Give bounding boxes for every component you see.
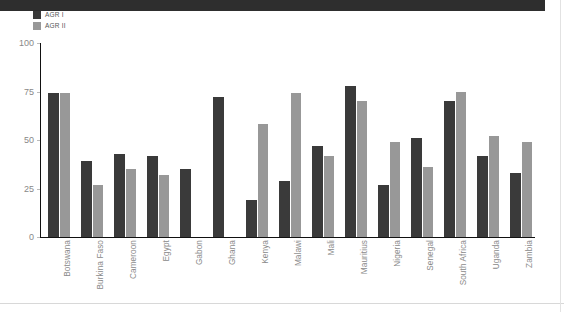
x-axis-label: South Africa (459, 240, 468, 285)
bar-group (378, 43, 400, 237)
bar (126, 169, 137, 237)
x-axis-label: Senegal (426, 240, 435, 271)
x-axis-label: Gabon (195, 240, 204, 265)
bar (180, 169, 191, 237)
bar (357, 101, 368, 237)
bar-group (147, 43, 169, 237)
y-axis-tick-label: 0 (29, 232, 34, 242)
x-axis-label: Uganda (492, 240, 501, 269)
x-axis-label: Nigeria (393, 240, 402, 267)
bar-group (114, 43, 136, 237)
x-axis-label: Egypt (162, 240, 171, 261)
x-axis-labels: BotswanaBurkina FasoCameroonEgyptGabonGh… (40, 240, 535, 310)
chart-figure: AGR IAGR II 0255075100 BotswanaBurkina F… (0, 0, 564, 312)
x-axis-line (40, 237, 535, 238)
bar-group (180, 43, 202, 237)
x-axis-label: Mauritius (360, 240, 369, 274)
x-axis-label: Botswana (63, 240, 72, 277)
bar (93, 185, 104, 237)
legend-swatch-icon (33, 22, 41, 30)
bar (423, 167, 434, 237)
bar-group (279, 43, 301, 237)
bar (48, 93, 59, 237)
bar (477, 156, 488, 237)
bar (378, 185, 389, 237)
legend-item-label: AGR II (45, 22, 66, 30)
bar (291, 93, 302, 237)
bar (522, 142, 533, 237)
bar (114, 154, 125, 237)
x-axis-label: Malawi (294, 240, 303, 266)
bar-group (213, 43, 235, 237)
bar (324, 156, 335, 237)
right-rule (560, 0, 561, 312)
bar-group (48, 43, 70, 237)
legend-item-label: AGR I (45, 11, 64, 19)
bar (312, 146, 323, 237)
chart-legend: AGR IAGR II (33, 10, 66, 32)
plot-area: 0255075100 (40, 43, 535, 237)
y-axis-tick-label: 50 (24, 135, 34, 145)
y-axis-tick-label: 100 (19, 38, 34, 48)
bar (456, 92, 467, 238)
bar-group (345, 43, 367, 237)
bar-group (510, 43, 532, 237)
x-axis-label: Mali (327, 240, 336, 255)
bar (213, 97, 224, 237)
bar (411, 138, 422, 237)
bar (159, 175, 170, 237)
y-axis-tick-mark (37, 237, 40, 238)
x-axis-label: Cameroon (129, 240, 138, 279)
bar (510, 173, 521, 237)
legend-item: AGR I (33, 10, 66, 19)
bottom-rule (0, 303, 564, 304)
bar (246, 200, 257, 237)
bar-group (411, 43, 433, 237)
x-axis-label: Ghana (228, 240, 237, 265)
bar (390, 142, 401, 237)
top-banner (0, 0, 545, 11)
bar-group (312, 43, 334, 237)
bar-series-container (40, 43, 535, 237)
legend-item: AGR II (33, 21, 66, 30)
bar-group (246, 43, 268, 237)
bar (279, 181, 290, 237)
y-axis-tick-label: 75 (24, 87, 34, 97)
y-axis-tick-label: 25 (24, 184, 34, 194)
bar (60, 93, 71, 237)
x-axis-label: Burkina Faso (96, 240, 105, 289)
bar (81, 161, 92, 237)
legend-swatch-icon (33, 11, 41, 19)
bar (444, 101, 455, 237)
x-axis-label: Kenya (261, 240, 270, 264)
bar (258, 124, 269, 237)
bar (147, 156, 158, 237)
bar-group (81, 43, 103, 237)
bar-group (444, 43, 466, 237)
x-axis-label: Zambia (525, 240, 534, 268)
bar-group (477, 43, 499, 237)
bar (345, 86, 356, 237)
bar (489, 136, 500, 237)
